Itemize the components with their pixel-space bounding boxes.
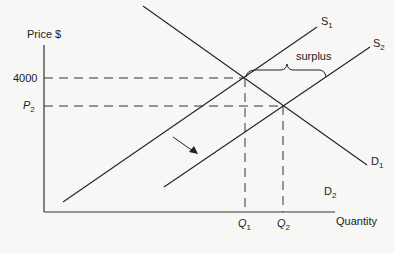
shift-arrow-shaft	[173, 137, 193, 151]
q2-main: Q	[277, 217, 286, 229]
supply-curve-s2	[164, 47, 370, 187]
surplus-label: surplus	[296, 51, 331, 62]
surplus-brace	[246, 64, 326, 77]
quantity-tick-q1: Q1	[238, 218, 251, 232]
d1-main: D	[371, 155, 379, 167]
curve-label-d2: D2	[324, 186, 336, 200]
p2-sub: 2	[30, 105, 34, 114]
q1-main: Q	[238, 217, 247, 229]
q1-sub: 1	[247, 223, 251, 232]
demand-curve-d1	[143, 6, 367, 165]
curve-label-d1: D1	[371, 156, 383, 170]
price-tick-p2: P2	[23, 100, 35, 114]
y-axis-label: Price $	[27, 29, 61, 40]
curve-label-s1: S1	[321, 16, 333, 30]
curve-label-s2: S2	[373, 38, 385, 52]
x-axis-label: Quantity	[336, 216, 377, 227]
s2-sub: 2	[380, 43, 384, 52]
d2-sub: 2	[332, 191, 336, 200]
d2-main: D	[324, 185, 332, 197]
d1-sub: 1	[379, 161, 383, 170]
supply-curve-s1	[63, 27, 317, 202]
supply-demand-diagram: Price $ Quantity 4000 P2 Q1 Q2 S1 S2 D1 …	[0, 0, 394, 253]
q2-sub: 2	[286, 223, 290, 232]
quantity-tick-q2: Q2	[277, 218, 290, 232]
s1-sub: 1	[328, 21, 332, 30]
arrow-head-icon	[189, 146, 198, 154]
price-tick-4000: 4000	[13, 73, 37, 84]
